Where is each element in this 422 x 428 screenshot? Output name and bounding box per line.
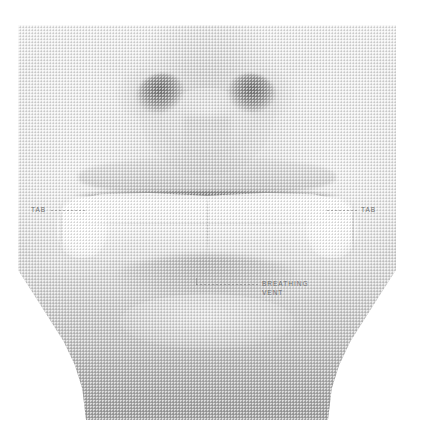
figure-root: TAB TAB BREATHING VENT [0,0,422,428]
device-breathing-vent-seam [207,194,208,260]
face-silhouette [18,25,396,420]
device-tab-right [307,197,357,258]
device-edge-right [352,201,354,254]
device-tab-left [57,197,107,258]
device-edge-left [60,201,62,254]
upper-lip [78,157,335,195]
jaw-neck-shadow [56,341,358,420]
mouth-strip-device [60,193,355,262]
halftone-plate [18,25,396,420]
